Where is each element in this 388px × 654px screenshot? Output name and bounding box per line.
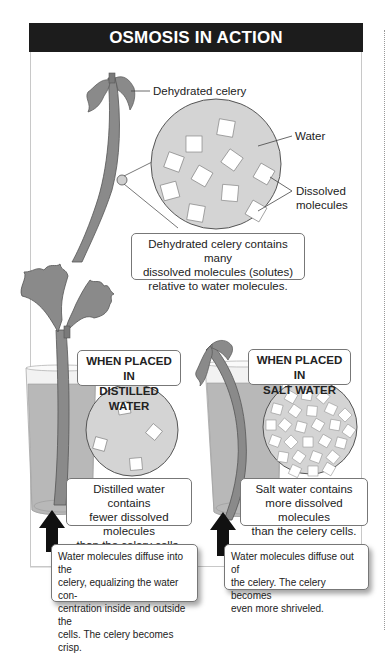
label-dissolved-2: molecules: [296, 198, 348, 212]
note-salt-water: Water molecules diffuse out of the celer…: [224, 544, 369, 590]
caption-line: Distilled water contains: [71, 482, 187, 510]
solution-circle-celery: [151, 99, 281, 229]
caption-line: Dehydrated celery contains many: [136, 237, 300, 265]
note-line: cells. The celery becomes crisp.: [58, 628, 191, 654]
label-dissolved-1: Dissolved: [296, 184, 346, 198]
caption-line: Salt water contains: [245, 482, 363, 496]
note-distilled-water: Water molecules diffuse into the celery,…: [51, 544, 198, 602]
caption-dehydrated-celery: Dehydrated celery contains many dissolve…: [131, 233, 305, 280]
label-dehydrated-celery: Dehydrated celery: [153, 84, 246, 98]
caption-line: dissolved molecules (solutes): [136, 265, 300, 279]
label-water: Water: [295, 129, 325, 143]
note-line: celery, equalizing the water con-: [58, 576, 191, 602]
caption-line: fewer dissolved molecules: [71, 510, 187, 538]
dehydrated-celery-icon: [72, 73, 135, 262]
caption-salt-water: Salt water contains more dissolved molec…: [240, 478, 368, 526]
note-line: centration inside and outside the: [58, 602, 191, 628]
heading-line: SALT WATER: [255, 383, 344, 398]
heading-line: WHEN PLACED IN: [255, 353, 344, 383]
caption-line: than the celery cells.: [245, 524, 363, 538]
note-line: even more shriveled.: [231, 602, 362, 615]
note-line: Water molecules diffuse out of: [231, 550, 362, 576]
heading-distilled-water: WHEN PLACED IN DISTILLED WATER: [77, 350, 181, 386]
heading-salt-water: WHEN PLACED IN SALT WATER: [248, 349, 351, 385]
heading-line: WHEN PLACED IN: [84, 354, 174, 384]
caption-line: relative to water molecules.: [136, 279, 300, 293]
note-line: Water molecules diffuse into the: [58, 550, 191, 576]
caption-line: more dissolved molecules: [245, 496, 363, 524]
heading-line: DISTILLED WATER: [84, 384, 174, 414]
note-line: the celery. The celery becomes: [231, 576, 362, 602]
caption-distilled-water: Distilled water contains fewer dissolved…: [66, 478, 192, 526]
